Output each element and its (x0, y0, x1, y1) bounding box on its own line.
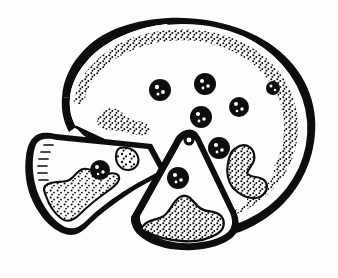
pepperoni (229, 97, 249, 117)
pizza-illustration: Pizza with two slices removed A hand-dra… (0, 0, 338, 278)
artboard: Pizza with two slices removed A hand-dra… (0, 0, 338, 278)
slice-middle-apex-blob (184, 135, 195, 146)
pepperoni (190, 106, 212, 128)
pepperoni (208, 137, 230, 159)
pepperoni (194, 73, 216, 95)
pepperoni (167, 167, 189, 189)
pepperoni (149, 79, 171, 101)
pepperoni (266, 81, 280, 95)
pepperoni (90, 160, 110, 180)
